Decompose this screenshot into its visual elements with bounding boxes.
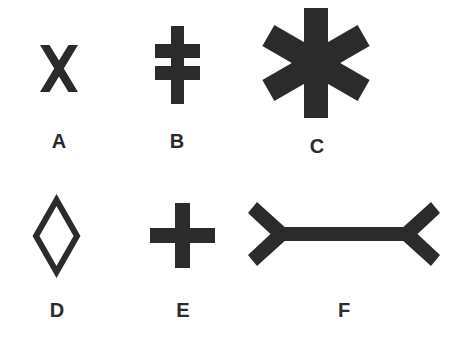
shape-f-muller-lyer: [248, 200, 440, 268]
figure-label-b: B: [157, 131, 197, 151]
shape-a-x-cross: [40, 45, 78, 92]
figure-label-a: A: [39, 131, 79, 151]
figure-cell-f: F: [248, 165, 456, 340]
x-cross-icon: [40, 45, 78, 92]
shape-d-diamond-outline: [33, 197, 80, 275]
shape-c-asterisk: [262, 8, 370, 118]
figure-cell-d: D: [0, 165, 140, 340]
figure-label-d: D: [37, 300, 77, 320]
figure-label-e: E: [163, 300, 203, 320]
figure-sheet: A B C: [0, 0, 456, 340]
figure-cell-c: C: [255, 0, 456, 165]
double-bar-cross-icon: [155, 26, 200, 104]
shape-e-plus-cross: [150, 203, 215, 268]
diamond-outline-icon: [33, 197, 80, 275]
figure-cell-b: B: [140, 0, 255, 160]
plus-cross-icon: [150, 203, 215, 268]
muller-lyer-arrow-icon: [248, 200, 440, 268]
figure-cell-e: E: [140, 165, 248, 340]
figure-label-c: C: [297, 136, 337, 156]
figure-cell-a: A: [0, 0, 140, 160]
figure-label-f: F: [324, 300, 364, 320]
six-spoke-asterisk-icon: [262, 8, 370, 118]
shape-b-double-bar-cross: [155, 26, 200, 104]
